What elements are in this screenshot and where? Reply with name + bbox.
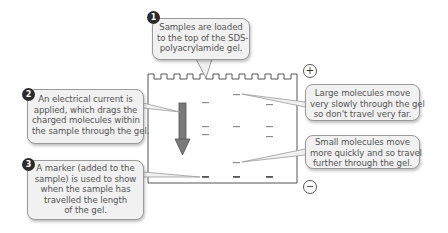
small-line-3: further through the gel.: [310, 158, 415, 169]
large-line-1: Large molecules move: [310, 88, 415, 99]
large-line-3: so don't travel very far.: [310, 109, 415, 120]
step-2-badge: 2: [22, 88, 35, 101]
large-molecules-callout: Large molecules move very slowly through…: [305, 84, 420, 121]
step-3-badge: 3: [22, 158, 35, 171]
step-3-line-5: of the gel.: [32, 205, 139, 216]
small-molecules-callout: Small molecules move more quickly and so…: [305, 135, 420, 169]
step-3-line-3: when the sample has: [32, 184, 139, 195]
step-2-line-3: charged molecules within: [32, 115, 139, 126]
small-line-2: more quickly and so travel: [310, 148, 415, 159]
gel-outline: [148, 74, 297, 183]
step-2-line-1: An electrical current is: [32, 94, 139, 105]
step-1-line-1: Samples are loaded: [157, 22, 245, 33]
step-1-line-2: to the top of the SDS-: [157, 33, 245, 44]
step-3-line-1: A marker (added to the: [32, 163, 139, 174]
step-3-callout: A marker (added to the sample) is used t…: [27, 160, 144, 220]
small-line-1: Small molecules move: [310, 137, 415, 148]
step-3-line-4: travelled the length: [32, 195, 139, 206]
step-1-callout: Samples are loaded to the top of the SDS…: [152, 18, 250, 60]
positive-electrode-icon: +: [303, 64, 317, 78]
step-1-badge: 1: [147, 11, 160, 24]
step-2-line-2: applied, which drags the: [32, 105, 139, 116]
step-2-line-4: the sample through the gel.: [32, 126, 139, 137]
large-line-2: very slowly through the gel: [310, 99, 415, 110]
step-2-callout: An electrical current is applied, which …: [27, 89, 144, 144]
step-3-line-2: sample) is used to show: [32, 174, 139, 185]
sds-page-diagram: + − 1 Samples are loaded to the top of t…: [0, 0, 448, 233]
negative-electrode-icon: −: [303, 180, 317, 194]
step-1-line-3: polyacrylamide gel.: [157, 43, 245, 54]
callout-1-pointer: [196, 59, 212, 78]
